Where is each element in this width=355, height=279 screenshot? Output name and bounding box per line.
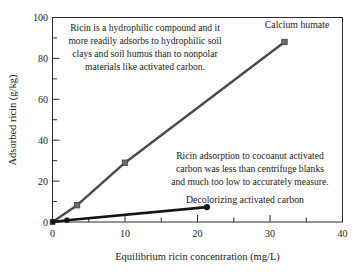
y-tick-label-0: 0: [43, 217, 48, 228]
annotation-cocoanut-note: Ricin adsorption to cocoanut activated c…: [171, 150, 328, 187]
y-tick-label-100: 100: [33, 12, 48, 23]
x-tick-label-20: 20: [193, 228, 203, 239]
decolorizing-carbon-marker: [50, 219, 55, 224]
y-tick-label-20: 20: [38, 176, 48, 187]
y-tick-label-40: 40: [38, 135, 48, 146]
annotation-line: and much too low to accurately measure.: [171, 176, 328, 187]
ricin-adsorption-chart: 0 20 40 60 80 100 0 10 20 30 40 Equilibr…: [0, 0, 355, 279]
x-axis-title: Equilibrium ricin concentration (mg/L): [115, 251, 280, 263]
calcium-humate-marker: [282, 39, 287, 44]
x-tick-label-40: 40: [338, 228, 348, 239]
annotation-line: Ricin adsorption to cocoanut activated: [176, 150, 324, 161]
calcium-humate-marker: [122, 160, 127, 165]
annotation-line: carbon was less than centrifuge blanks: [176, 163, 324, 174]
decolorizing-carbon-marker: [64, 218, 69, 223]
x-tick-label-10: 10: [120, 228, 130, 239]
x-tick-label-0: 0: [50, 228, 55, 239]
annotation-line: clays and soil humus than to nonpolar: [72, 48, 218, 59]
y-axis-title: Adsorbed ricin (g/kg): [7, 74, 19, 165]
y-tick-label-60: 60: [38, 94, 48, 105]
x-tick-label-30: 30: [265, 228, 275, 239]
decolorizing-carbon-label: Decolorizing activated carbon: [186, 194, 304, 205]
calcium-humate-marker: [74, 203, 79, 208]
annotation-line: more readily adsorbs to hydrophilic soil: [68, 35, 222, 46]
y-tick-label-80: 80: [38, 53, 48, 64]
annotation-line: materials like activated carbon.: [85, 61, 205, 72]
calcium-humate-label: Calcium humate: [265, 19, 330, 30]
annotation-line: Ricin is a hydrophilic compound and it: [70, 22, 220, 33]
chart-figure: 0 20 40 60 80 100 0 10 20 30 40 Equilibr…: [0, 0, 355, 279]
